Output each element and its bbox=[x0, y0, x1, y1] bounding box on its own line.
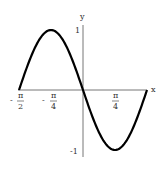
svg-text:4: 4 bbox=[113, 102, 118, 111]
x-tick-neg-pi-4: - π 4 bbox=[42, 91, 57, 111]
svg-text:4: 4 bbox=[51, 102, 56, 111]
y-tick-1: 1 bbox=[75, 26, 80, 35]
svg-text:π: π bbox=[113, 91, 118, 100]
svg-text:2: 2 bbox=[18, 102, 23, 111]
x-tick-neg-pi-2: - π 2 bbox=[10, 91, 24, 111]
svg-text:π: π bbox=[18, 91, 23, 100]
svg-text:-: - bbox=[42, 96, 45, 105]
y-tick-neg1: -1 bbox=[70, 147, 78, 156]
y-axis-label: y bbox=[79, 12, 85, 21]
svg-text:π: π bbox=[51, 91, 56, 100]
x-axis-label: x bbox=[151, 85, 156, 94]
sine-chart: x y 1 -1 - π 2 - π 4 π 4 bbox=[0, 0, 162, 169]
svg-text:-: - bbox=[10, 96, 13, 105]
x-tick-pi-4: π 4 bbox=[112, 91, 119, 111]
